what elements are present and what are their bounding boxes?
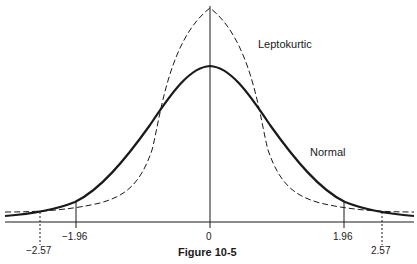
tick-label-pos-257: 2.57 [371, 245, 391, 256]
tick-label-neg-257: −2.57 [26, 245, 52, 256]
tick-label-zero: 0 [206, 231, 212, 242]
figure-caption: Figure 10-5 [178, 246, 237, 258]
leptokurtic-label: Leptokurtic [258, 38, 312, 50]
distribution-figure: Leptokurtic Normal −2.57 −1.96 0 1.96 2.… [0, 0, 417, 264]
tick-label-neg-196: −1.96 [62, 231, 88, 242]
tick-label-pos-196: 1.96 [333, 231, 353, 242]
normal-label: Normal [310, 146, 345, 158]
